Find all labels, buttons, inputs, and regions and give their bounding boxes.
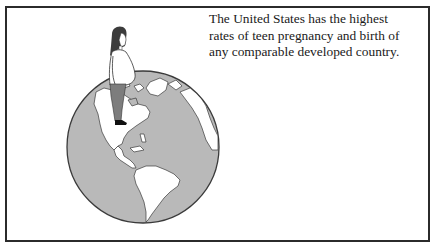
caption-text: The United States has the highest rates … <box>209 11 424 61</box>
globe-americas-icon <box>67 71 219 223</box>
caption-line: rates of teen pregnancy and birth of <box>209 28 424 45</box>
caption-line: The United States has the highest <box>209 11 424 28</box>
caption-line: any comparable developed country. <box>209 44 424 61</box>
